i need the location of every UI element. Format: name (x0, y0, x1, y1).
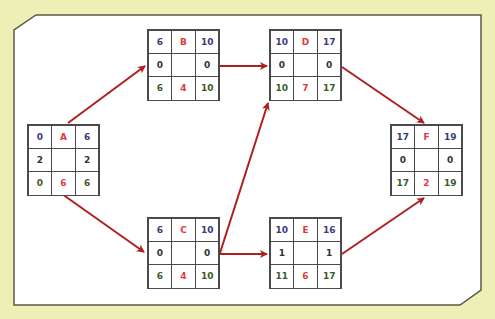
empty-cell (414, 148, 439, 172)
activity-node-f: 17 F 19 0 0 17 2 19 (390, 124, 463, 196)
slack-right: 1 (317, 241, 342, 265)
earliest-start: 10 (270, 218, 295, 242)
slack-left: 0 (148, 241, 173, 265)
latest-start: 0 (28, 171, 53, 195)
latest-start: 11 (270, 264, 295, 288)
activity-name: A (51, 125, 76, 149)
earliest-finish: 10 (195, 218, 220, 242)
slack-right: 2 (75, 148, 100, 172)
empty-cell (293, 241, 318, 265)
earliest-start: 0 (28, 125, 53, 149)
slack-left: 2 (28, 148, 53, 172)
slack-right: 0 (438, 148, 463, 172)
latest-finish: 19 (438, 171, 463, 195)
earliest-start: 6 (148, 30, 173, 54)
latest-start: 6 (148, 264, 173, 288)
activity-name: B (171, 30, 196, 54)
activity-name: E (293, 218, 318, 242)
earliest-finish: 10 (195, 30, 220, 54)
empty-cell (51, 148, 76, 172)
duration: 6 (293, 264, 318, 288)
earliest-finish: 6 (75, 125, 100, 149)
latest-finish: 17 (317, 76, 342, 100)
empty-cell (171, 241, 196, 265)
latest-start: 10 (270, 76, 295, 100)
earliest-finish: 16 (317, 218, 342, 242)
latest-start: 6 (148, 76, 173, 100)
latest-finish: 6 (75, 171, 100, 195)
slack-right: 0 (195, 53, 220, 77)
slack-left: 1 (270, 241, 295, 265)
activity-name: C (171, 218, 196, 242)
activity-node-a: 0 A 6 2 2 0 6 6 (27, 124, 100, 196)
slack-right: 0 (195, 241, 220, 265)
activity-node-e: 10 E 16 1 1 11 6 17 (269, 217, 342, 289)
activity-name: D (293, 30, 318, 54)
activity-name: F (414, 125, 439, 149)
empty-cell (293, 53, 318, 77)
earliest-start: 6 (148, 218, 173, 242)
latest-finish: 17 (317, 264, 342, 288)
earliest-start: 10 (270, 30, 295, 54)
duration: 4 (171, 76, 196, 100)
slack-left: 0 (148, 53, 173, 77)
duration: 4 (171, 264, 196, 288)
duration: 2 (414, 171, 439, 195)
activity-node-d: 10 D 17 0 0 10 7 17 (269, 29, 342, 101)
latest-finish: 10 (195, 76, 220, 100)
earliest-finish: 19 (438, 125, 463, 149)
slack-left: 0 (391, 148, 416, 172)
earliest-finish: 17 (317, 30, 342, 54)
activity-node-b: 6 B 10 0 0 6 4 10 (147, 29, 220, 101)
duration: 6 (51, 171, 76, 195)
duration: 7 (293, 76, 318, 100)
slack-right: 0 (317, 53, 342, 77)
slack-left: 0 (270, 53, 295, 77)
latest-start: 17 (391, 171, 416, 195)
empty-cell (171, 53, 196, 77)
latest-finish: 10 (195, 264, 220, 288)
earliest-start: 17 (391, 125, 416, 149)
activity-node-c: 6 C 10 0 0 6 4 10 (147, 217, 220, 289)
